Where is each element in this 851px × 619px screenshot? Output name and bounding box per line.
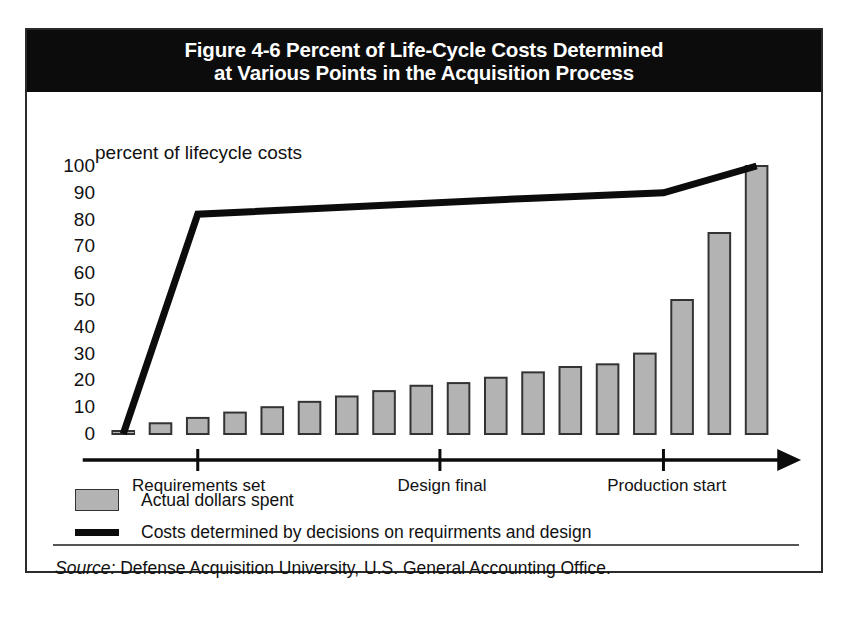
bar xyxy=(746,166,768,434)
bar xyxy=(671,300,693,434)
bar xyxy=(448,383,470,434)
legend-item-bars: Actual dollars spent xyxy=(75,484,775,516)
plot-area: percent of lifecycle costs 1009080706050… xyxy=(27,92,821,575)
chart-legend: Actual dollars spent Costs determined by… xyxy=(75,484,775,548)
figure-panel: Figure 4-6 Percent of Life-Cycle Costs D… xyxy=(25,28,823,573)
bar xyxy=(224,413,246,434)
source-divider xyxy=(53,544,799,546)
legend-bar-label: Actual dollars spent xyxy=(141,490,294,511)
bar xyxy=(150,423,172,434)
bar xyxy=(336,396,358,434)
bar-series xyxy=(112,166,767,434)
bar xyxy=(410,386,432,434)
source-note: Source: Defense Acquisition University, … xyxy=(55,558,611,579)
x-axis-arrowhead xyxy=(777,449,801,471)
legend-line-swatch xyxy=(75,529,119,536)
bar xyxy=(485,378,507,434)
bar xyxy=(634,354,656,434)
x-axis xyxy=(83,449,801,471)
bar xyxy=(299,402,321,434)
bar xyxy=(709,233,731,434)
figure-title-line-2: at Various Points in the Acquisition Pro… xyxy=(214,61,634,84)
figure-title-bar: Figure 4-6 Percent of Life-Cycle Costs D… xyxy=(27,30,821,92)
legend-line-label: Costs determined by decisions on requirm… xyxy=(141,522,591,543)
line-series xyxy=(123,166,756,434)
bar xyxy=(261,407,283,434)
bar xyxy=(187,418,209,434)
bar xyxy=(597,364,619,434)
figure-title-line-1: Figure 4-6 Percent of Life-Cycle Costs D… xyxy=(185,38,664,61)
source-text: Defense Acquisition University, U.S. Gen… xyxy=(120,558,611,578)
cost-determined-line xyxy=(123,166,756,434)
bar xyxy=(522,372,544,434)
bar xyxy=(373,391,395,434)
bar xyxy=(560,367,582,434)
source-prefix: Source: xyxy=(55,558,115,578)
legend-bar-swatch xyxy=(75,489,119,511)
